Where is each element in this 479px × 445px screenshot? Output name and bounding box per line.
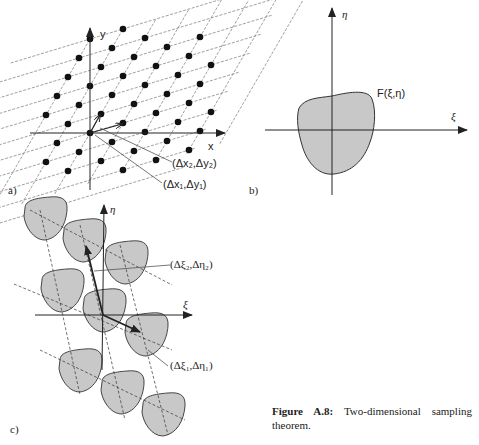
sample-dot [109, 45, 116, 52]
lattice-line [0, 0, 284, 82]
panel-a-y-label: y [100, 28, 106, 40]
figure-caption: Figure A.8: Two-dimensional sampling the… [272, 404, 472, 432]
sample-dot [208, 109, 215, 116]
sample-dot [175, 72, 182, 79]
panel-b-eta-label: η [342, 8, 347, 20]
sample-dot [98, 158, 105, 165]
panel-b-label: b) [249, 184, 258, 196]
sample-dot [65, 168, 72, 175]
sample-dot [120, 120, 127, 127]
sample-dot [120, 73, 127, 80]
sample-dot [153, 157, 160, 164]
replicated-spectrum [41, 269, 84, 312]
sample-dot [142, 82, 149, 89]
sample-dot [186, 100, 193, 107]
sample-dot [109, 139, 116, 146]
replicated-spectrum [101, 371, 144, 414]
lattice-line [11, 0, 295, 63]
replicated-spectrum [83, 289, 126, 332]
panel-b-spectrum [265, 8, 467, 195]
sample-dot [131, 148, 138, 155]
caption-label: Figure A.8: [272, 405, 333, 417]
panel-c-xi-label: ξ [183, 298, 188, 310]
panel-c-replicated-spectra [14, 197, 192, 436]
sample-dot [153, 110, 160, 117]
sample-dot [208, 62, 215, 69]
sample-dot [65, 121, 72, 128]
replicated-spectrum [63, 219, 106, 262]
sample-dot [54, 140, 61, 147]
sample-dot [76, 149, 83, 156]
panel-c-vector1-label: (Δξ₁,Δη₁) [170, 359, 213, 371]
sample-dot [164, 138, 171, 145]
sample-dot [142, 35, 149, 42]
replicated-spectrum [59, 349, 102, 392]
panel-b-function-label: F(ξ,η) [377, 87, 405, 99]
replicated-spectrum [142, 393, 185, 436]
vector-1-leader [95, 135, 162, 183]
replicated-spectrum [105, 241, 148, 284]
spectrum-region [298, 92, 375, 174]
sample-dot [197, 34, 204, 41]
sample-dot [109, 92, 116, 99]
panel-a-vector1-label: (Δx₁,Δy₁) [163, 178, 207, 190]
sample-dot [65, 74, 72, 81]
sample-dot [153, 63, 160, 70]
panel-b-xi-label: ξ [451, 110, 456, 122]
sample-dot [43, 159, 50, 166]
lattice-line [121, 0, 222, 174]
lattice-line [0, 72, 240, 158]
sample-dot [186, 147, 193, 154]
sample-dot [164, 44, 171, 51]
panel-a-vector2-label: (Δx₂,Δy₂) [172, 157, 217, 169]
panel-c-eta-label: η [110, 203, 115, 215]
sample-dot [175, 119, 182, 126]
panel-c-vector2-label: (Δξ₂,Δη₂) [170, 258, 213, 270]
vector-1-leader [148, 350, 168, 366]
sample-dot [197, 81, 204, 88]
sample-dot [54, 93, 61, 100]
sample-dot [120, 26, 127, 33]
sample-dot [142, 129, 149, 136]
panel-a-x-label: x [208, 140, 214, 152]
sample-dot [98, 64, 105, 71]
panel-a-label: a) [8, 184, 17, 196]
sample-dot [186, 53, 193, 60]
sample-dot [76, 102, 83, 109]
sample-dot [76, 55, 83, 62]
sample-dot [131, 54, 138, 61]
panel-c-label: c) [10, 423, 19, 435]
sample-dot [164, 91, 171, 98]
figure-canvas [0, 0, 479, 445]
lattice-line [0, 34, 262, 120]
lattice-sample-dots [43, 26, 215, 175]
sample-dot [131, 101, 138, 108]
sample-dot [120, 167, 127, 174]
sample-dot [43, 112, 50, 119]
